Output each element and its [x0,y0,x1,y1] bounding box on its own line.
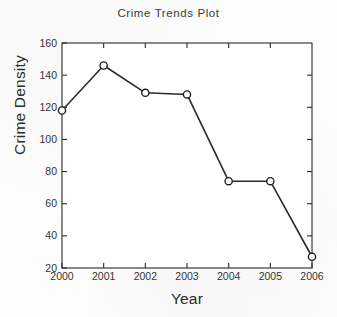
y-tick-label: 160 [39,37,57,49]
y-tick-label: 120 [39,101,57,113]
x-axis-tick-labels: 2000 2001 2002 2003 2004 2005 2006 [50,270,324,282]
x-tick-label: 2002 [134,270,158,282]
y-tick-label: 100 [39,133,57,145]
axes-frame [62,43,312,268]
y-tick-label: 140 [39,69,57,81]
data-point-marker [183,91,190,98]
data-point-marker [308,253,315,260]
x-tick-label: 2000 [50,270,74,282]
x-axis-label: Year [62,290,312,308]
y-axis-tick-labels: 20 40 60 80 100 120 140 160 [39,37,57,274]
data-point-marker [100,62,107,69]
y-axis-label: Crime Density [11,45,29,165]
y-tick-label: 40 [45,229,57,241]
x-tick-label: 2004 [217,270,241,282]
data-point-marker [267,178,274,185]
y-tick-label: 60 [45,197,57,209]
data-point-marker [58,107,65,114]
y-tick-label: 80 [45,165,57,177]
x-tick-label: 2001 [92,270,116,282]
chart-figure: Crime Trends Plot [0,0,337,317]
data-point-marker [142,89,149,96]
data-point-marker [225,178,232,185]
line-chart-plot-area: 20 40 60 80 100 120 140 160 2000 2001 20… [0,0,337,317]
x-tick-label: 2003 [175,270,199,282]
x-tick-label: 2006 [300,270,324,282]
x-tick-label: 2005 [259,270,283,282]
